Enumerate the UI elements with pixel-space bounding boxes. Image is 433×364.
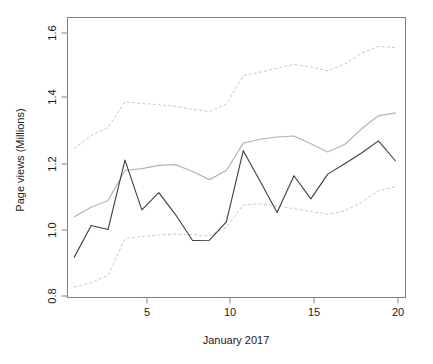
line-chart: 1.6 1.4 1.2 1.0 0.8 Page views (Millions…: [0, 0, 433, 364]
y-axis-ticks: [62, 33, 68, 296]
y-axis-title: Page views (Millions): [14, 108, 26, 211]
x-tick-label-20: 20: [392, 306, 404, 318]
y-tick-label-1.2: 1.2: [46, 156, 58, 171]
x-axis-title: January 2017: [203, 334, 270, 346]
x-tick-label-10: 10: [224, 306, 236, 318]
y-tick-label-0.8: 0.8: [46, 288, 58, 303]
chart-container: 1.6 1.4 1.2 1.0 0.8 Page views (Millions…: [0, 0, 433, 364]
series-fitted-level: [74, 113, 395, 217]
x-tick-label-5: 5: [144, 306, 150, 318]
series-lower-bound: [74, 187, 395, 287]
x-tick-label-15: 15: [308, 306, 320, 318]
series-upper-bound: [74, 46, 395, 148]
x-axis-ticks: [147, 298, 398, 304]
series-observed: [74, 141, 395, 257]
y-tick-label-1.0: 1.0: [46, 222, 58, 237]
y-tick-label-1.4: 1.4: [46, 89, 58, 104]
y-tick-label-1.6: 1.6: [46, 25, 58, 40]
